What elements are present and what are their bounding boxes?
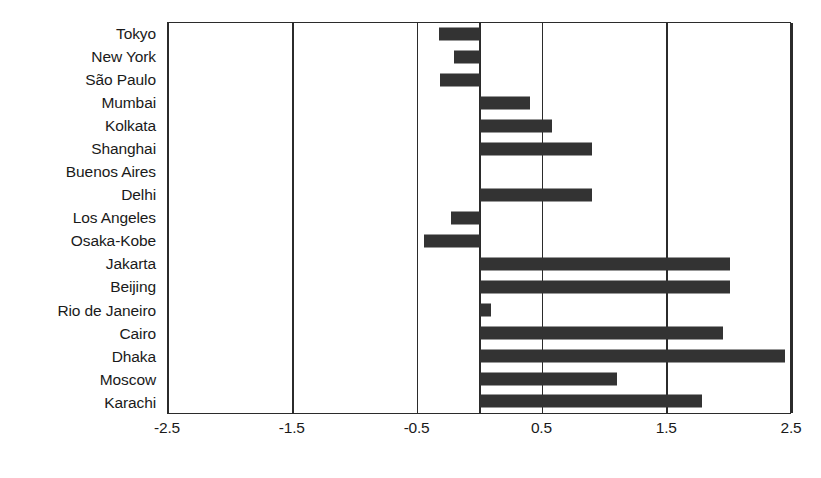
- y-axis-label: Beijing: [0, 276, 163, 299]
- y-axis-label: Dhaka: [0, 345, 163, 368]
- bar-row: [168, 344, 790, 367]
- gridline: [791, 23, 793, 413]
- y-axis-label: Rio de Janeiro: [0, 299, 163, 322]
- bar[interactable]: [451, 211, 480, 224]
- bar-row: [168, 92, 790, 115]
- bar-row: [168, 184, 790, 207]
- x-axis-tick-labels: -2.5-1.5-0.50.51.52.5: [167, 420, 791, 448]
- bar-row: [168, 275, 790, 298]
- x-tick-label: 1.5: [656, 420, 677, 436]
- x-tick-label: -2.5: [154, 420, 180, 436]
- y-axis-label: Osaka-Kobe: [0, 230, 163, 253]
- x-tick-label: 2.5: [781, 420, 802, 436]
- bar-row: [168, 390, 790, 413]
- bar-row: [168, 207, 790, 230]
- y-axis-label: Buenos Aires: [0, 160, 163, 183]
- bar[interactable]: [480, 257, 730, 270]
- bar-series: [168, 23, 790, 413]
- bar-row: [168, 23, 790, 46]
- bar[interactable]: [480, 372, 617, 385]
- bar-row: [168, 138, 790, 161]
- bar[interactable]: [440, 74, 480, 87]
- bar[interactable]: [480, 395, 702, 408]
- bar-row: [168, 46, 790, 69]
- x-tick-label: 0.5: [531, 420, 552, 436]
- bar[interactable]: [480, 120, 552, 133]
- bar[interactable]: [424, 234, 480, 247]
- bar-row: [168, 321, 790, 344]
- bar[interactable]: [439, 28, 480, 41]
- y-axis-category-labels: TokyoNew YorkSão PauloMumbaiKolkataShang…: [0, 22, 163, 414]
- y-axis-label: Los Angeles: [0, 207, 163, 230]
- y-axis-label: São Paulo: [0, 68, 163, 91]
- bar[interactable]: [454, 51, 480, 64]
- bar[interactable]: [480, 189, 592, 202]
- x-tick-label: -1.5: [279, 420, 305, 436]
- y-axis-label: Shanghai: [0, 137, 163, 160]
- bar[interactable]: [480, 326, 723, 339]
- y-axis-label: New York: [0, 45, 163, 68]
- y-axis-label: Jakarta: [0, 253, 163, 276]
- bar-row: [168, 298, 790, 321]
- y-axis-label: Tokyo: [0, 22, 163, 45]
- bar[interactable]: [480, 280, 730, 293]
- bar-row: [168, 161, 790, 184]
- bar[interactable]: [480, 349, 785, 362]
- bar-chart: TokyoNew YorkSão PauloMumbaiKolkataShang…: [0, 0, 821, 478]
- bar[interactable]: [480, 143, 592, 156]
- y-axis-label: Delhi: [0, 183, 163, 206]
- plot-area: [167, 22, 791, 414]
- bar-row: [168, 69, 790, 92]
- y-axis-label: Karachi: [0, 391, 163, 414]
- bar[interactable]: [480, 97, 530, 110]
- bar-row: [168, 252, 790, 275]
- y-axis-label: Moscow: [0, 368, 163, 391]
- bar-row: [168, 367, 790, 390]
- bar[interactable]: [480, 303, 491, 316]
- y-axis-label: Cairo: [0, 322, 163, 345]
- x-tick-label: -0.5: [404, 420, 430, 436]
- bar-row: [168, 229, 790, 252]
- y-axis-label: Mumbai: [0, 91, 163, 114]
- y-axis-label: Kolkata: [0, 114, 163, 137]
- bar-row: [168, 115, 790, 138]
